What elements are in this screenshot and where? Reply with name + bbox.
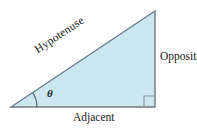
theta-angle-label: θ <box>47 88 53 99</box>
opposite-label: Opposite <box>160 51 197 63</box>
adjacent-label: Adjacent <box>73 112 115 124</box>
triangle-figure: Hypotenuse Opposite Adjacent θ <box>0 0 197 128</box>
triangle-diagram-svg <box>0 0 197 128</box>
